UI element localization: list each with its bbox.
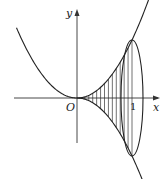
upper-curve: [17, 0, 149, 98]
y-axis-arrow-icon: [75, 9, 80, 16]
tick-one-label: 1: [130, 101, 136, 112]
solid-of-revolution-diagram: y x O 1: [0, 0, 166, 179]
x-axis-label: x: [153, 101, 160, 114]
origin-label: O: [66, 101, 75, 114]
lower-curve: [77, 98, 149, 179]
x-axis-arrow-icon: [153, 96, 160, 101]
y-axis-label: y: [65, 7, 73, 20]
y-axis: [75, 9, 80, 143]
